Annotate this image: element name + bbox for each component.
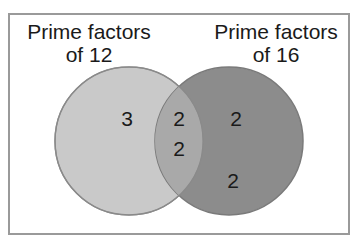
- set-b-label-line2: of 16: [200, 43, 352, 66]
- set-b-only-item: 2: [230, 107, 242, 130]
- set-a-only-item: 3: [121, 107, 133, 130]
- intersection-item: 2: [173, 107, 185, 130]
- set-a-label-line2: of 12: [14, 43, 164, 66]
- set-a-label-line1: Prime factors: [14, 20, 164, 43]
- set-b-label-line1: Prime factors: [200, 20, 352, 43]
- intersection-item: 2: [173, 137, 185, 160]
- set-b-only-item: 2: [227, 169, 239, 192]
- set-b-label: Prime factors of 16: [200, 20, 352, 66]
- set-a-label: Prime factors of 12: [14, 20, 164, 66]
